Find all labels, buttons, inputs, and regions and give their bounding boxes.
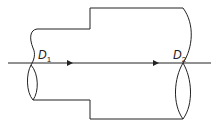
pipe-bottom-outline [33, 100, 183, 119]
flow-arrow-icon-1 [67, 60, 73, 66]
pipe-top-outline [31, 8, 183, 48]
d1-cross-section [27, 48, 37, 100]
label-d2: D2 [173, 49, 186, 64]
pipe-diagram [0, 0, 219, 126]
flow-arrow-icon-2 [153, 60, 159, 66]
label-d1: D1 [38, 49, 51, 64]
